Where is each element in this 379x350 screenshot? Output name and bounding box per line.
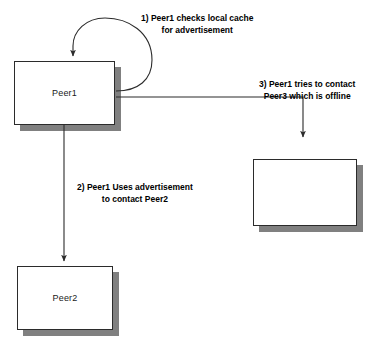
annotation-step3: 3) Peer1 tries to contact Peer3 which is… (259, 78, 355, 102)
peer2-node[interactable]: Peer2 (17, 266, 113, 330)
annotation-step2: 2) Peer1 Uses advertisement to contact P… (77, 181, 193, 205)
annotation-step2-line2: to contact Peer2 (77, 193, 193, 205)
peer1-node-label: Peer1 (52, 88, 77, 98)
annotation-step2-line1: 2) Peer1 Uses advertisement (77, 181, 193, 193)
peer3-node[interactable] (253, 159, 357, 226)
annotation-step1: 1) Peer1 checks local cache for advertis… (141, 12, 253, 36)
peer1-to-peer3-edge (116, 97, 303, 137)
peer1-node[interactable]: Peer1 (14, 61, 115, 125)
annotation-step3-line2: Peer3 which is offline (259, 90, 355, 102)
annotation-step1-line1: 1) Peer1 checks local cache (141, 12, 253, 24)
peer2-node-label: Peer2 (52, 293, 77, 303)
annotation-step3-line1: 3) Peer1 tries to contact (259, 78, 355, 90)
annotation-step1-line2: for advertisement (141, 24, 253, 36)
diagram-canvas: Peer1 Peer2 1) Peer1 checks local cache … (0, 0, 379, 350)
